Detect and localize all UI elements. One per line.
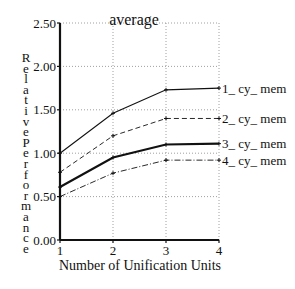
y-tick-label: 0.00 — [33, 233, 56, 248]
y-tick-label: 1.00 — [33, 146, 56, 161]
x-axis-ticks: 1234 — [57, 240, 223, 258]
grid-lines — [60, 23, 219, 240]
legend: 1_ cy_ mem2_ cy_ mem3_ cy_ mem4_ cy_ mem — [222, 81, 286, 168]
y-tick-label: 0.50 — [33, 189, 56, 204]
x-axis-label: Number of Unification Units — [59, 258, 221, 273]
series-line-3 — [60, 144, 219, 187]
legend-label-2: 2_ cy_ mem — [222, 111, 286, 126]
x-tick-label: 1 — [57, 243, 64, 258]
y-axis-ticks: 0.000.501.001.502.002.50 — [33, 16, 60, 248]
series-line-4 — [60, 160, 219, 196]
line-chart: 0.000.501.001.502.002.50 1234 1_ cy_ mem… — [0, 0, 295, 289]
data-series — [58, 86, 221, 199]
series-line-2 — [60, 118, 219, 172]
y-axis-label-char: e — [23, 241, 29, 256]
y-tick-label: 1.50 — [33, 102, 56, 117]
y-tick-label: 2.00 — [33, 59, 56, 74]
x-tick-label: 2 — [110, 243, 117, 258]
legend-label-1: 1_ cy_ mem — [222, 81, 286, 96]
chart-title: average — [109, 11, 159, 29]
y-tick-label: 2.50 — [33, 16, 56, 31]
x-tick-label: 4 — [216, 243, 223, 258]
legend-label-3: 3_ cy_ mem — [222, 136, 286, 151]
x-tick-label: 3 — [163, 243, 170, 258]
axes — [60, 23, 219, 240]
y-axis-label: RelativePerformance — [21, 50, 31, 256]
legend-label-4: 4_ cy_ mem — [222, 153, 286, 168]
